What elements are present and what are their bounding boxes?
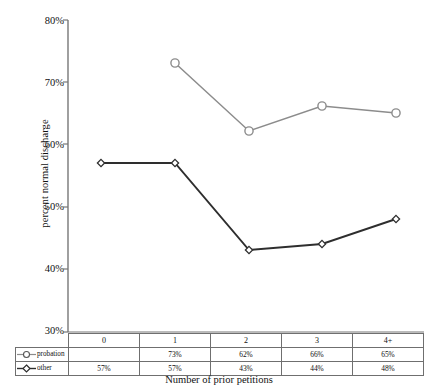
table-row: probation 73% 62% 66% 65% (16, 348, 424, 362)
legend-probation-label: probation (37, 351, 65, 358)
series-probation (171, 59, 400, 135)
table-header-cat-4: 4+ (353, 334, 424, 348)
series-probation-point-1 (171, 59, 179, 67)
series-probation-line (175, 63, 396, 131)
series-other (97, 159, 399, 253)
table-header-cat-3: 3 (282, 334, 353, 348)
open-circle-marker-icon (17, 349, 36, 360)
series-probation-point-4 (392, 109, 400, 117)
x-axis-title: Number of prior petitions (0, 374, 438, 385)
series-other-line (101, 163, 396, 250)
table-header-cat-0: 0 (69, 334, 140, 348)
table-corner-cell (16, 334, 69, 348)
legend-probation: probation (16, 348, 69, 362)
table-cell-probation-2: 62% (211, 348, 282, 362)
table-cell-probation-4: 65% (353, 348, 424, 362)
series-probation-point-3 (318, 102, 326, 110)
series-other-point-4 (392, 215, 399, 222)
table-header-row: 0 1 2 3 4+ (16, 334, 424, 348)
chart-figure: percent normal discharge 80% 70% 60% 50%… (0, 0, 438, 392)
table-cell-probation-1: 73% (140, 348, 211, 362)
filled-diamond-marker-icon (17, 363, 36, 374)
table-header-cat-2: 2 (211, 334, 282, 348)
series-probation-point-2 (245, 127, 253, 135)
table-cell-probation-3: 66% (282, 348, 353, 362)
data-table: 0 1 2 3 4+ probation 73% (15, 333, 424, 376)
series-other-point-0 (97, 159, 104, 166)
table-header-cat-1: 1 (140, 334, 211, 348)
series-other-point-3 (318, 240, 325, 247)
legend-other-label: other (37, 365, 52, 372)
table-cell-probation-0 (69, 348, 140, 362)
